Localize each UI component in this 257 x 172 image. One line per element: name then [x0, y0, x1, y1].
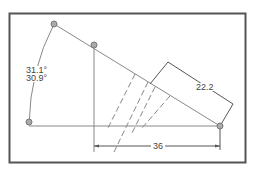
diagram-svg [0, 0, 257, 172]
point-d[interactable] [217, 123, 223, 129]
arrow-left-icon [94, 145, 99, 148]
diagram-canvas: 31.1° 30.9° 22.2 36 [0, 0, 257, 172]
point-c[interactable] [26, 119, 32, 125]
point-a[interactable] [51, 21, 57, 27]
dashed-line-4 [131, 87, 155, 135]
hypotenuse-line [54, 24, 220, 126]
arrow-right-icon [215, 145, 220, 148]
angle-label-lower: 30.9° [26, 74, 47, 82]
dimension-label-slanted: 22.2 [196, 83, 214, 91]
dashed-line-3 [142, 96, 170, 128]
point-b[interactable] [91, 42, 97, 48]
dimension-label-horizontal: 36 [151, 142, 165, 150]
dim-extension-1 [150, 62, 168, 84]
dashed-line-2 [108, 74, 135, 128]
dashed-line-1 [114, 82, 148, 152]
dim-extension-2 [220, 104, 233, 126]
